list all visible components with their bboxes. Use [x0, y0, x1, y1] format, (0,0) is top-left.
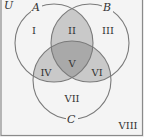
region-v-label: V: [67, 58, 76, 69]
region-iv-label: IV: [40, 67, 52, 78]
region-vi-label: VI: [90, 67, 102, 78]
set-b-label: B: [102, 1, 111, 14]
venn-diagram: U A B C I II III IV V VI VII VIII: [0, 0, 144, 137]
set-c-label: C: [67, 113, 76, 126]
region-i-label: I: [32, 25, 36, 36]
region-viii-label: VIII: [117, 120, 137, 131]
region-ii-label: II: [68, 25, 76, 36]
region-vii-label: VII: [63, 93, 79, 104]
set-a-label: A: [31, 1, 40, 14]
region-iii-label: III: [102, 25, 114, 36]
universe-label: U: [4, 0, 14, 12]
